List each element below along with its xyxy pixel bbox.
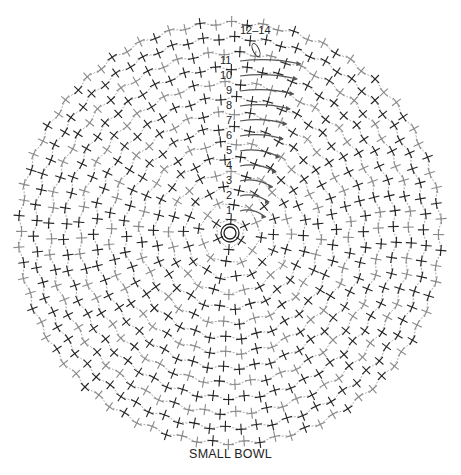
- single-crochet-icon: [58, 157, 68, 167]
- single-crochet-icon: [267, 342, 277, 352]
- single-crochet-icon: [204, 423, 215, 434]
- single-crochet-icon: [320, 306, 329, 315]
- single-crochet-icon: [101, 119, 109, 127]
- single-crochet-icon: [74, 86, 82, 94]
- single-crochet-icon: [376, 238, 387, 249]
- single-crochet-icon: [193, 223, 204, 234]
- single-crochet-icon: [421, 240, 432, 251]
- single-crochet-icon: [211, 171, 222, 182]
- single-crochet-icon: [58, 234, 69, 245]
- single-crochet-icon: [27, 304, 37, 314]
- single-crochet-icon: [275, 367, 285, 377]
- single-crochet-icon: [102, 362, 110, 370]
- single-crochet-icon: [230, 406, 241, 417]
- single-crochet-icon: [134, 133, 142, 141]
- single-crochet-icon: [132, 418, 142, 428]
- single-crochet-icon: [367, 176, 377, 186]
- single-crochet-icon: [214, 376, 225, 387]
- slip-stitch-loop-icon: [250, 42, 261, 57]
- single-crochet-icon: [151, 282, 160, 291]
- round-label: 12–14: [240, 24, 271, 36]
- single-crochet-icon: [357, 67, 366, 76]
- single-crochet-icon: [112, 193, 123, 204]
- single-crochet-icon: [305, 52, 315, 62]
- single-crochet-icon: [127, 185, 137, 195]
- single-crochet-icon: [83, 73, 91, 81]
- single-crochet-icon: [215, 273, 226, 284]
- single-crochet-icon: [375, 207, 386, 218]
- single-crochet-icon: [206, 254, 215, 263]
- single-crochet-icon: [135, 327, 143, 335]
- single-crochet-icon: [273, 285, 281, 293]
- single-crochet-icon: [188, 356, 199, 367]
- single-crochet-icon: [207, 435, 218, 446]
- single-crochet-icon: [218, 316, 229, 327]
- single-crochet-icon: [344, 167, 354, 177]
- single-crochet-icon: [125, 201, 136, 212]
- single-crochet-icon: [220, 346, 231, 357]
- single-crochet-icon: [135, 37, 145, 47]
- single-crochet-icon: [94, 105, 102, 113]
- round-label: 7: [226, 114, 232, 126]
- single-crochet-icon: [174, 304, 183, 313]
- direction-arrow-icon: [240, 75, 297, 79]
- single-crochet-icon: [141, 191, 151, 201]
- single-crochet-icon: [182, 114, 192, 124]
- single-crochet-icon: [327, 142, 335, 150]
- single-crochet-icon: [72, 370, 80, 378]
- single-crochet-icon: [143, 120, 152, 129]
- single-crochet-icon: [249, 313, 260, 324]
- single-crochet-icon: [73, 296, 83, 306]
- single-crochet-icon: [371, 75, 379, 83]
- single-crochet-icon: [245, 35, 256, 46]
- single-crochet-icon: [405, 206, 416, 217]
- single-crochet-icon: [81, 383, 89, 391]
- single-crochet-icon: [298, 411, 308, 421]
- single-crochet-icon: [289, 143, 298, 152]
- single-crochet-icon: [236, 334, 247, 345]
- single-crochet-icon: [169, 397, 179, 408]
- single-crochet-icon: [269, 385, 280, 396]
- single-crochet-icon: [122, 47, 132, 57]
- single-crochet-icon: [353, 121, 361, 129]
- single-crochet-icon: [38, 136, 48, 146]
- single-crochet-icon: [204, 348, 215, 359]
- single-crochet-icon: [360, 210, 371, 221]
- single-crochet-icon: [230, 304, 241, 315]
- single-crochet-icon: [145, 159, 153, 167]
- single-crochet-icon: [114, 110, 122, 118]
- single-crochet-icon: [391, 161, 401, 171]
- single-crochet-icon: [281, 244, 292, 255]
- single-crochet-icon: [416, 256, 427, 267]
- single-crochet-icon: [214, 300, 225, 311]
- single-crochet-icon: [159, 410, 169, 420]
- single-crochet-icon: [67, 113, 76, 122]
- round-label: 11: [220, 54, 231, 66]
- single-crochet-icon: [186, 291, 195, 300]
- single-crochet-icon: [345, 362, 353, 370]
- single-crochet-icon: [101, 81, 110, 89]
- single-crochet-icon: [328, 410, 338, 420]
- single-crochet-icon: [223, 394, 234, 405]
- single-crochet-icon: [317, 180, 327, 190]
- single-crochet-icon: [398, 315, 408, 325]
- single-crochet-icon: [295, 97, 305, 107]
- single-crochet-icon: [133, 109, 142, 118]
- single-crochet-icon: [131, 397, 141, 407]
- single-crochet-icon: [345, 248, 356, 259]
- single-crochet-icon: [388, 221, 399, 232]
- single-crochet-icon: [68, 144, 78, 154]
- single-crochet-icon: [173, 284, 181, 292]
- single-crochet-icon: [80, 338, 89, 347]
- single-crochet-icon: [394, 283, 405, 293]
- single-crochet-icon: [158, 62, 168, 72]
- single-crochet-icon: [13, 242, 24, 253]
- single-crochet-icon: [336, 279, 346, 289]
- single-crochet-icon: [99, 183, 109, 193]
- single-crochet-icon: [340, 112, 348, 120]
- single-crochet-icon: [278, 260, 287, 269]
- single-crochet-icon: [251, 217, 261, 227]
- single-crochet-icon: [185, 212, 195, 222]
- single-crochet-icon: [378, 372, 386, 380]
- single-crochet-icon: [104, 239, 115, 250]
